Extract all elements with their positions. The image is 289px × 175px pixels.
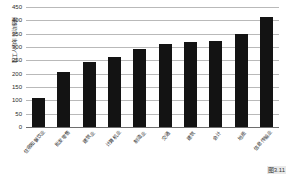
x-label-1: 批发零售 <box>53 129 71 148</box>
y-tick-300: 300 <box>12 44 22 50</box>
bar-9 <box>260 17 273 127</box>
x-label-2: 建筑业 <box>81 129 95 144</box>
bar-5 <box>159 44 172 127</box>
y-tick-250: 250 <box>12 57 22 63</box>
y-tick-200: 200 <box>12 71 22 77</box>
y-axis-tick-labels: 450 400 350 300 250 200 150 100 50 0 <box>0 7 24 127</box>
bar-cell <box>77 7 102 127</box>
x-cell: 计算机业 <box>102 129 127 169</box>
x-label-5: 交通 <box>160 130 171 141</box>
bar-cell <box>254 7 279 127</box>
y-tick-50: 50 <box>15 111 22 117</box>
x-cell: 批发零售 <box>51 129 76 169</box>
x-cell: 交通 <box>152 129 177 169</box>
x-label-8: 地质 <box>236 130 247 141</box>
x-cell: 建筑 <box>178 129 203 169</box>
x-label-3: 计算机业 <box>104 129 122 148</box>
x-axis-category-labels: 住宿和餐饮业 批发零售 建筑业 计算机业 制造业 交通 建筑 会计 地质 信息传… <box>26 129 279 169</box>
x-label-0: 住宿和餐饮业 <box>22 129 47 155</box>
x-cell: 制造业 <box>127 129 152 169</box>
bar-2 <box>83 62 96 127</box>
bar-chart-figure: 职工人均年劳动报酬 450 400 350 300 250 200 150 10… <box>0 0 289 175</box>
bar-cell <box>102 7 127 127</box>
x-cell: 住宿和餐饮业 <box>26 129 51 169</box>
bar-7 <box>209 41 222 127</box>
x-cell: 信息传输业 <box>254 129 279 169</box>
bar-1 <box>57 72 70 127</box>
bar-cell <box>51 7 76 127</box>
y-tick-400: 400 <box>12 17 22 23</box>
x-label-4: 制造业 <box>132 129 146 144</box>
bar-cell <box>152 7 177 127</box>
y-tick-350: 350 <box>12 31 22 37</box>
y-tick-450: 450 <box>12 4 22 10</box>
plot-area <box>26 7 279 127</box>
x-cell: 会计 <box>203 129 228 169</box>
bar-0 <box>32 98 45 127</box>
bar-6 <box>184 42 197 127</box>
bar-3 <box>108 57 121 127</box>
y-tick-150: 150 <box>12 84 22 90</box>
bar-4 <box>133 49 146 127</box>
y-tick-100: 100 <box>12 97 22 103</box>
bar-cell <box>178 7 203 127</box>
bar-series <box>26 7 279 127</box>
bar-cell <box>26 7 51 127</box>
x-cell: 建筑业 <box>77 129 102 169</box>
figure-caption: 图3.11 <box>267 166 286 174</box>
bar-cell <box>228 7 253 127</box>
y-tick-0: 0 <box>19 124 22 130</box>
bar-cell <box>203 7 228 127</box>
x-label-7: 会计 <box>211 130 222 141</box>
x-label-6: 建筑 <box>186 130 197 141</box>
x-cell: 地质 <box>228 129 253 169</box>
axis-baseline <box>26 127 279 128</box>
bar-cell <box>127 7 152 127</box>
x-label-9: 信息传输业 <box>252 129 273 152</box>
bar-8 <box>235 34 248 127</box>
